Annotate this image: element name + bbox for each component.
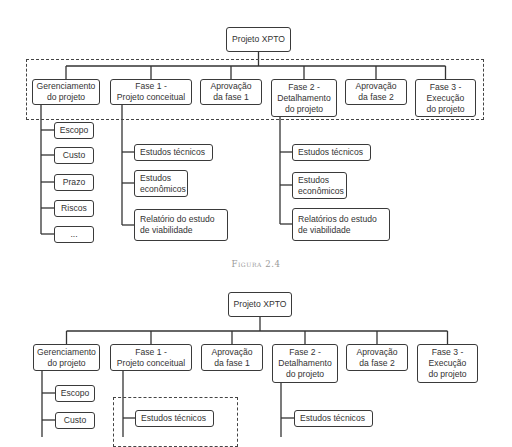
- child-node: Custo: [55, 412, 95, 429]
- phase-node: Fase 3 - Execução do projeto: [417, 344, 478, 383]
- child-node: Relatório do estudo de viabilidade: [134, 209, 228, 241]
- child-node: Escopo: [55, 385, 95, 402]
- phase-node: Gerenciamento do projeto: [33, 344, 100, 371]
- root-node: Projeto XPTO: [226, 27, 291, 52]
- child-node: Estudos técnicos: [134, 144, 213, 161]
- child-node: Estudos econômicos: [292, 172, 347, 199]
- root-node: Projeto XPTO: [228, 292, 292, 317]
- phase-node: Aprovação da fase 1: [201, 344, 263, 371]
- child-node: Custo: [54, 147, 94, 164]
- child-node: Relatórios do estudo de viabilidade: [292, 208, 390, 241]
- child-node: Estudos técnicos: [292, 144, 371, 161]
- child-node: ...: [54, 226, 94, 243]
- phase-node: Aprovação da fase 2: [346, 344, 408, 371]
- phase-node: Fase 2 - Detalhamento do projeto: [272, 344, 338, 383]
- child-node: Estudos econômicos: [134, 170, 188, 197]
- child-node: Escopo: [54, 122, 94, 139]
- phase-node: Fase 1 - Projeto conceitual: [110, 344, 192, 371]
- child-node: Estudos técnicos: [135, 410, 214, 427]
- figure-caption: Figura 2.4: [0, 259, 512, 269]
- child-node: Estudos técnicos: [294, 410, 373, 427]
- phases-group-dashed-box: [26, 59, 484, 120]
- child-node: Prazo: [54, 174, 94, 191]
- child-node: Riscos: [54, 200, 94, 217]
